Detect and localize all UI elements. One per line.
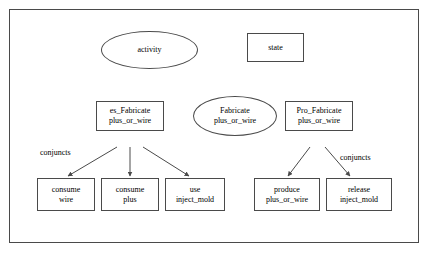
node-pro-fabricate[interactable]: Pro_Fabricate plus_or_wire — [285, 101, 353, 131]
node-consume-wire-line-1: wire — [59, 195, 73, 205]
node-fabricate-line-0: Fabricate — [220, 106, 250, 116]
node-es-fabricate-line-0: es_Fabricate — [110, 106, 150, 116]
node-consume-plus-line-0: consume — [116, 185, 144, 195]
node-pro-fabricate-line-0: Pro_Fabricate — [297, 106, 342, 116]
diagram-canvas: activity state es_Fabricate plus_or_wire… — [0, 0, 429, 253]
node-consume-wire-line-0: consume — [52, 185, 80, 195]
node-consume-wire[interactable]: consume wire — [37, 178, 95, 211]
node-consume-plus-line-1: plus — [123, 195, 136, 205]
node-release-line-0: release — [348, 185, 370, 195]
annotation-conjuncts-left: conjuncts — [40, 148, 71, 158]
node-activity-line-0: activity — [138, 45, 162, 55]
node-produce-line-0: produce — [274, 185, 300, 195]
node-produce-line-1: plus_or_wire — [266, 195, 308, 205]
node-use-inject-mold-line-0: use — [190, 185, 201, 195]
node-fabricate[interactable]: Fabricate plus_or_wire — [193, 96, 277, 136]
node-produce-plus-or-wire[interactable]: produce plus_or_wire — [254, 178, 320, 211]
node-es-fabricate[interactable]: es_Fabricate plus_or_wire — [96, 101, 164, 131]
node-state[interactable]: state — [247, 33, 304, 62]
node-release-line-1: inject_mold — [340, 195, 378, 205]
node-consume-plus[interactable]: consume plus — [101, 178, 159, 211]
node-use-inject-mold[interactable]: use inject_mold — [165, 178, 225, 211]
node-release-inject-mold[interactable]: release inject_mold — [326, 178, 392, 211]
node-pro-fabricate-line-1: plus_or_wire — [298, 116, 340, 126]
node-state-line-0: state — [268, 43, 283, 53]
node-es-fabricate-line-1: plus_or_wire — [109, 116, 151, 126]
node-fabricate-line-1: plus_or_wire — [214, 116, 256, 126]
annotation-conjuncts-right: conjuncts — [340, 153, 371, 163]
node-activity[interactable]: activity — [101, 31, 198, 69]
node-use-inject-mold-line-1: inject_mold — [176, 195, 214, 205]
